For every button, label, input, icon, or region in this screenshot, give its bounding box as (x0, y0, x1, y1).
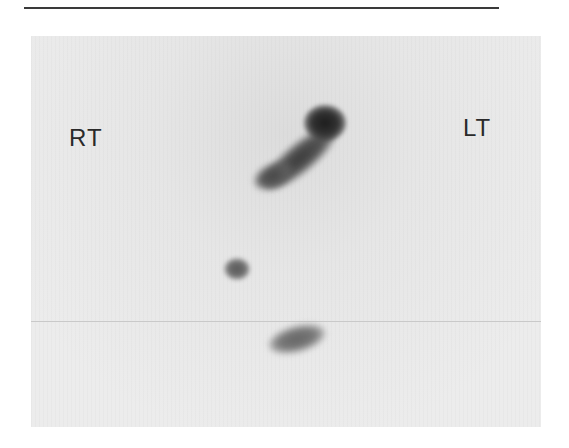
scan-artifact-line (31, 321, 541, 322)
scan-image: RT LT (31, 36, 541, 427)
top-rule (24, 7, 499, 9)
right-side-label: RT (69, 124, 103, 152)
focal-spot (224, 258, 250, 280)
left-side-label: LT (463, 114, 491, 142)
upper-uptake-head (304, 105, 346, 141)
lower-uptake (266, 319, 329, 359)
